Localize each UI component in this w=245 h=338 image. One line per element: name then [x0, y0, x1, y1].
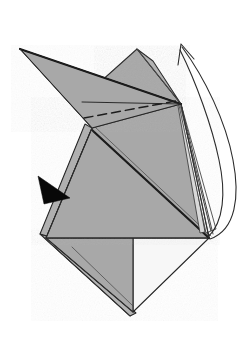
origami-illustration: [0, 0, 245, 338]
origami-diagram-canvas: Origami folding step folded paper model,…: [0, 0, 245, 338]
lower-diamond-group: [40, 234, 209, 316]
lower-diamond-right-face: [133, 238, 209, 312]
